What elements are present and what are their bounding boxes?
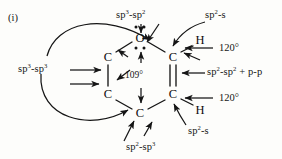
label-sp2-s-bottom: sp2-s bbox=[188, 126, 209, 137]
label-sp3-sp3-base1: sp bbox=[18, 63, 28, 74]
bond-C3-C4 bbox=[116, 100, 132, 109]
lone-pair-dot bbox=[143, 26, 146, 29]
arrow-to-C2-upper bbox=[118, 50, 128, 57]
label-sp2-s-bottom-sep: -s bbox=[201, 125, 209, 136]
label-sp3-sp2-base1: sp bbox=[116, 9, 126, 20]
label-sp2-sp2-base1: sp bbox=[207, 66, 217, 77]
bond-C5-H2 bbox=[181, 99, 193, 105]
lone-pair-dot bbox=[143, 47, 146, 50]
lone-pair-dot bbox=[135, 47, 138, 50]
arrow-sp2s-to-C5H2 bbox=[174, 104, 186, 125]
label-sp3-sp3-base2: sp bbox=[35, 63, 45, 74]
atom-carbon-2: C bbox=[104, 51, 112, 64]
arrow-sp2sp3-to-C4 bbox=[144, 122, 152, 136]
atom-oxygen: O bbox=[135, 32, 144, 45]
arrow-sp3sp3-to-C4 bbox=[41, 74, 128, 120]
label-sp2-s-top: sp2-s bbox=[205, 10, 226, 21]
atom-carbon-6: C bbox=[169, 51, 177, 64]
angle-label-109: 109° bbox=[125, 70, 143, 80]
annotation-arrows bbox=[41, 22, 213, 141]
label-sp3-sp3-sup2: 3 bbox=[44, 62, 47, 69]
atom-carbon-3: C bbox=[104, 88, 112, 101]
atom-carbon-4: C bbox=[136, 107, 144, 120]
label-sp2-s-top-base1: sp bbox=[205, 9, 215, 20]
label-sp2-sp3-base1: sp bbox=[126, 141, 136, 152]
figure-panel: (i) bbox=[0, 0, 282, 159]
atom-carbon-5: C bbox=[169, 88, 177, 101]
label-sp3-sp2-base2: sp bbox=[133, 9, 143, 20]
atom-hydrogen-bottom: H bbox=[195, 104, 204, 117]
bond-O1-C6 bbox=[148, 42, 165, 52]
angle-label-120-top: 120° bbox=[219, 42, 239, 53]
label-sp2-sp2-base2: sp bbox=[224, 66, 234, 77]
label-sp2-sp3-sup2: 3 bbox=[152, 140, 155, 147]
arrow-sp3sp2-to-bond-O1C6 bbox=[147, 24, 159, 42]
bond-C4-C5 bbox=[148, 100, 165, 109]
label-sp2-sp2-tail: + p-p bbox=[237, 66, 263, 77]
label-sp3-sp3: sp3-sp3 bbox=[18, 64, 48, 75]
label-sp3-sp2: sp3-sp2 bbox=[116, 10, 146, 21]
label-sp2-sp3-base2: sp bbox=[143, 141, 153, 152]
label-sp3-sp2-sup2: 2 bbox=[142, 8, 145, 15]
bond-C6-H1 bbox=[181, 46, 193, 52]
atom-hydrogen-top: H bbox=[195, 34, 204, 47]
angle-label-120-bottom: 120° bbox=[219, 92, 239, 103]
lone-pair-dot bbox=[135, 26, 138, 29]
label-sp2-s-top-sep: -s bbox=[218, 9, 226, 20]
label-sp2-sp2-p-p: sp2-sp2 + p-p bbox=[207, 67, 262, 78]
label-sp2-s-bottom-base1: sp bbox=[188, 125, 198, 136]
label-sp2-sp3: sp2-sp3 bbox=[126, 142, 156, 153]
arrow-sp2sp3-to-C4-b bbox=[124, 121, 134, 141]
arrow-to-C6 bbox=[184, 53, 200, 60]
